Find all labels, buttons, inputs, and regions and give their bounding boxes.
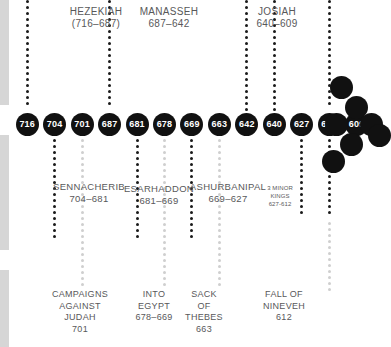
connector-up-716 [26, 0, 29, 108]
text-line: JOSIAH [232, 6, 322, 18]
minor-kings-block: 3 MINORKINGS627-612 [256, 184, 304, 208]
event-campaigns-against-judah: CAMPAIGNSAGAINSTJUDAH701 [32, 289, 128, 336]
text-line: 640–609 [232, 18, 322, 30]
text-line: JUDAH [32, 312, 128, 324]
text-line: CAMPAIGNS [32, 289, 128, 301]
page-edge-bar-1 [0, 0, 9, 105]
text-line: 3 MINOR [256, 184, 304, 192]
timeline-date-chip[interactable]: 627 [290, 113, 313, 136]
text-line: NINEVEH [240, 301, 328, 313]
text-line: 687–642 [110, 18, 228, 30]
text-line: MANASSEH [110, 6, 228, 18]
text-line: KINGS [256, 192, 304, 200]
text-line: FALL OF [240, 289, 328, 301]
decorative-dot-1 [330, 76, 353, 99]
judah-king-josiah: JOSIAH640–609 [232, 6, 322, 30]
timeline-date-chip[interactable]: 678 [153, 113, 176, 136]
timeline-date-chip[interactable]: 640 [263, 113, 286, 136]
timeline-date-chip[interactable]: 716 [16, 113, 39, 136]
judah-king-manasseh: MANASSEH687–642 [110, 6, 228, 30]
text-line: OF [172, 301, 236, 313]
timeline-date-chip[interactable]: 663 [208, 113, 231, 136]
text-line: 612 [240, 312, 328, 324]
text-line: 627-612 [256, 200, 304, 208]
decorative-dot-5 [340, 133, 363, 156]
timeline-date-chip[interactable]: 681 [126, 113, 149, 136]
timeline-date-chip[interactable]: 701 [71, 113, 94, 136]
text-line: SACK [172, 289, 236, 301]
event-sack-of-thebes: SACKOFTHEBES663 [172, 289, 236, 336]
decorative-dot-7 [368, 124, 391, 147]
connector-event-678 [163, 139, 166, 291]
page-edge-bar-2 [0, 135, 9, 250]
timeline-date-chip[interactable]: 704 [43, 113, 66, 136]
timeline-date-chip[interactable]: 687 [98, 113, 121, 136]
connector-event-701 [81, 139, 84, 291]
decorative-dot-6 [322, 150, 345, 173]
decorative-dot-3 [325, 113, 348, 136]
connector-event-663 [218, 139, 221, 291]
text-line: THEBES [172, 312, 236, 324]
timeline-date-chip[interactable]: 669 [180, 113, 203, 136]
connector-event-612 [328, 222, 331, 294]
text-line: 663 [172, 324, 236, 336]
event-fall-of-nineveh: FALL OFNINEVEH612 [240, 289, 328, 324]
timeline-date-chip[interactable]: 642 [235, 113, 258, 136]
text-line: 701 [32, 324, 128, 336]
text-line: AGAINST [32, 301, 128, 313]
page-edge-bar-3 [0, 270, 9, 347]
